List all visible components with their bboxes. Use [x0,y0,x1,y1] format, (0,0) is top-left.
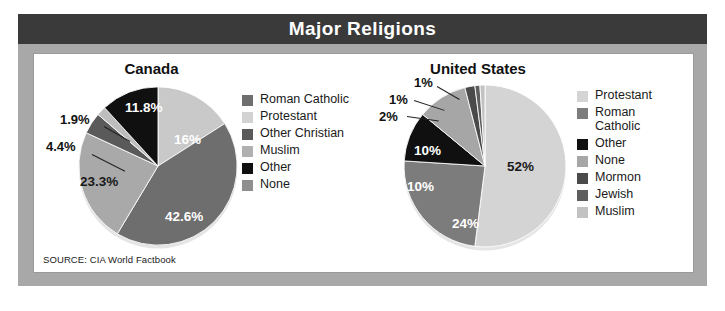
canada-legend-item[interactable]: None [242,177,349,191]
canada-slice-label-protestant: 16% [174,132,201,147]
canada-callout-muslim: 1.9% [60,112,90,127]
canada-legend-label: Protestant [260,109,317,123]
major-religions-figure: Major Religions Canada 16% 42.6% 23.3% 1… [0,0,725,311]
us-legend-label: Protestant [595,88,652,102]
us-chart-block: United States 52% 24% 10% 10% 2% 1% 1% P… [379,54,693,272]
canada-legend-label: Roman Catholic [260,92,349,106]
us-legend-swatch-icon [577,190,588,201]
canada-legend-swatch-icon [242,163,253,174]
canada-legend-label: Other Christian [260,126,344,140]
us-legend-swatch-icon [577,173,588,184]
us-legend-swatch-icon [577,108,588,119]
us-legend-swatch-icon [577,207,588,218]
figure-title-bar: Major Religions [18,14,707,44]
us-legend-label: Mormon [595,170,641,184]
us-legend-label: Jewish [595,187,633,201]
canada-legend-item[interactable]: Other Christian [242,126,349,140]
us-legend-item[interactable]: None [577,153,652,167]
canada-slice-label-other: 11.8% [125,100,163,115]
canada-slice-label-roman-catholic: 42.6% [165,209,203,224]
us-legend-item[interactable]: Jewish [577,187,652,201]
canada-legend-label: None [260,177,290,191]
canada-legend: Roman CatholicProtestantOther ChristianM… [242,92,349,194]
canada-legend-swatch-icon [242,180,253,191]
us-legend-item[interactable]: Muslim [577,204,652,218]
us-callout-mormon: 2% [379,109,398,124]
canada-legend-label: Muslim [260,143,300,157]
us-legend-swatch-icon [577,156,588,167]
us-slice-label-none: 10% [414,143,441,158]
us-legend-item[interactable]: Mormon [577,170,652,184]
canada-chart-title: Canada [33,60,324,77]
us-callout-muslim: 1% [414,75,433,90]
us-callout-jewish: 1% [389,92,408,107]
canada-legend-item[interactable]: Muslim [242,143,349,157]
us-slice-label-other: 10% [407,179,434,194]
source-note: SOURCE: CIA World Factbook [43,254,176,265]
us-slice-label-roman-catholic: 24% [452,216,479,231]
us-pie-slice[interactable] [404,161,485,246]
us-legend-label: Roman Catholic [595,105,640,133]
us-legend-label: None [595,153,625,167]
us-legend-item[interactable]: Protestant [577,88,652,102]
canada-legend-swatch-icon [242,112,253,123]
canada-legend-swatch-icon [242,95,253,106]
us-legend: ProtestantRoman CatholicOtherNoneMormonJ… [577,88,652,221]
us-legend-swatch-icon [577,139,588,150]
us-slice-group [404,85,566,247]
canada-legend-item[interactable]: Protestant [242,109,349,123]
us-legend-item[interactable]: Roman Catholic [577,105,652,133]
canada-legend-swatch-icon [242,146,253,157]
canada-legend-item[interactable]: Other [242,160,349,174]
us-legend-label: Muslim [595,204,635,218]
canada-callout-other-christian: 4.4% [46,139,76,154]
canada-legend-swatch-icon [242,129,253,140]
us-legend-item[interactable]: Other [577,136,652,150]
us-slice-label-protestant: 52% [507,159,534,174]
canada-chart-block: Canada 16% 42.6% 23.3% 11.8% 4.4% 1.9% R… [34,54,379,272]
figure-panel: Canada 16% 42.6% 23.3% 11.8% 4.4% 1.9% R… [33,53,694,273]
page-title: Major Religions [289,18,436,40]
us-legend-label: Other [595,136,626,150]
us-legend-swatch-icon [577,91,588,102]
us-chart-title: United States [321,60,635,77]
canada-legend-item[interactable]: Roman Catholic [242,92,349,106]
canada-slice-label-none: 23.3% [80,174,118,189]
canada-legend-label: Other [260,160,291,174]
